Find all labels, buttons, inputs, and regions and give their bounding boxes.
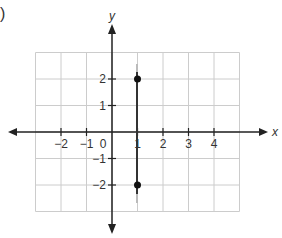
data-point bbox=[134, 76, 141, 83]
y-axis-label: y bbox=[108, 9, 116, 23]
x-axis-label: x bbox=[271, 125, 279, 139]
coordinate-plane: ) x y −2−101234 21−1−2 bbox=[0, 0, 282, 238]
y-tick-label: −2 bbox=[92, 178, 106, 192]
y-tick-label: 1 bbox=[99, 99, 106, 113]
data-point bbox=[134, 182, 141, 189]
x-tick-label: 2 bbox=[160, 137, 167, 151]
x-axis-right-arrow-icon bbox=[259, 128, 268, 136]
part-marker: ) bbox=[0, 5, 5, 22]
x-axis: x bbox=[8, 125, 279, 139]
x-tick-label: 0 bbox=[100, 137, 107, 151]
y-axis-up-arrow-icon bbox=[108, 24, 116, 34]
y-axis: y bbox=[108, 9, 116, 234]
x-tick-label: 4 bbox=[211, 137, 218, 151]
y-tick-label: 2 bbox=[99, 72, 106, 86]
x-tick-label: −1 bbox=[80, 137, 94, 151]
y-tick-label: −1 bbox=[92, 152, 106, 166]
x-tick-label: −2 bbox=[54, 137, 68, 151]
x-tick-label: 3 bbox=[185, 137, 192, 151]
x-axis-left-arrow-icon bbox=[8, 128, 17, 136]
y-axis-down-arrow-icon bbox=[108, 224, 116, 234]
